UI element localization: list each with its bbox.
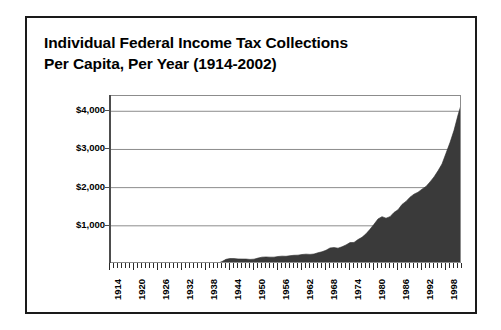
x-tick-1948	[245, 263, 246, 268]
x-tick-1944	[229, 263, 230, 270]
x-tick-1979	[369, 263, 370, 268]
x-tick-1934	[189, 263, 190, 268]
x-tick-1961	[297, 263, 298, 268]
x-tick-1915	[113, 263, 114, 268]
chart-title: Individual Federal Income Tax Collection…	[44, 33, 444, 75]
x-tick-2001	[457, 263, 458, 268]
x-tick-1955	[273, 263, 274, 268]
x-tick-1949	[249, 263, 250, 268]
x-tick-1963	[305, 263, 306, 268]
x-tick-1916	[117, 263, 118, 268]
x-tick-1964	[309, 263, 310, 268]
x-tick-1918	[125, 263, 126, 268]
x-tick-1935	[193, 263, 194, 268]
y-tick-label-2000: $2,000	[49, 182, 105, 192]
x-tick-label-1986: 1986	[401, 279, 411, 300]
x-tick-1939	[209, 263, 210, 268]
x-tick-1960	[293, 263, 294, 268]
x-tick-1938	[205, 263, 206, 270]
x-tick-1995	[433, 263, 434, 268]
x-tick-1977	[361, 263, 362, 268]
x-tick-1996	[437, 263, 438, 268]
x-tick-1983	[385, 263, 386, 268]
x-tick-1928	[165, 263, 166, 268]
x-tick-1924	[149, 263, 150, 268]
x-tick-label-1998: 1998	[449, 279, 459, 300]
x-tick-2002	[461, 263, 462, 268]
x-tick-1992	[421, 263, 422, 270]
x-tick-1971	[337, 263, 338, 268]
x-tick-1993	[425, 263, 426, 268]
x-tick-1991	[417, 263, 418, 268]
x-tick-1984	[389, 263, 390, 268]
x-axis-labels: 1914192019261932193819441950195619621968…	[109, 270, 461, 320]
x-tick-1981	[377, 263, 378, 268]
x-tick-label-1968: 1968	[329, 279, 339, 300]
x-tick-label-1914: 1914	[113, 279, 123, 300]
plot-area	[109, 95, 461, 263]
x-tick-1994	[429, 263, 430, 268]
x-tick-1973	[345, 263, 346, 268]
x-tick-label-1974: 1974	[353, 279, 363, 300]
x-tick-label-1956: 1956	[281, 279, 291, 300]
x-tick-1922	[141, 263, 142, 268]
x-tick-label-1944: 1944	[233, 279, 243, 300]
x-tick-label-1920: 1920	[137, 279, 147, 300]
x-tick-1999	[449, 263, 450, 268]
x-tick-1974	[349, 263, 350, 270]
x-tick-1925	[153, 263, 154, 268]
x-tick-1976	[357, 263, 358, 268]
x-tick-1998	[445, 263, 446, 270]
x-tick-1941	[217, 263, 218, 268]
x-tick-1956	[277, 263, 278, 270]
x-tick-1923	[145, 263, 146, 268]
x-tick-label-1950: 1950	[257, 279, 267, 300]
y-tick-label-3000: $3,000	[49, 143, 105, 153]
x-tick-1951	[257, 263, 258, 268]
y-axis-line	[109, 95, 111, 263]
x-tick-1962	[301, 263, 302, 270]
x-tick-label-1992: 1992	[425, 279, 435, 300]
x-tick-1968	[325, 263, 326, 270]
x-tick-1969	[329, 263, 330, 268]
x-tick-label-1962: 1962	[305, 279, 315, 300]
x-tick-1945	[233, 263, 234, 268]
x-tick-1931	[177, 263, 178, 268]
figure-border: Individual Federal Income Tax Collection…	[25, 16, 477, 314]
x-tick-1952	[261, 263, 262, 268]
tax-collections-area-series	[110, 102, 461, 263]
x-tick-1917	[121, 263, 122, 268]
area-chart-svg	[110, 96, 461, 263]
x-tick-1914	[109, 263, 110, 270]
x-tick-1970	[333, 263, 334, 268]
x-tick-1987	[401, 263, 402, 268]
x-tick-1940	[213, 263, 214, 268]
x-tick-1982	[381, 263, 382, 268]
x-tick-1946	[237, 263, 238, 268]
x-tick-1967	[321, 263, 322, 268]
x-tick-1919	[129, 263, 130, 268]
x-tick-1957	[281, 263, 282, 268]
x-tick-1990	[413, 263, 414, 268]
x-tick-1988	[405, 263, 406, 268]
x-tick-2000	[453, 263, 454, 268]
x-tick-1972	[341, 263, 342, 268]
x-tick-1978	[365, 263, 366, 268]
x-tick-1985	[393, 263, 394, 268]
x-tick-label-1926: 1926	[161, 279, 171, 300]
x-tick-1966	[317, 263, 318, 268]
x-tick-1930	[173, 263, 174, 268]
x-tick-label-1938: 1938	[209, 279, 219, 300]
x-tick-1927	[161, 263, 162, 268]
x-tick-1921	[137, 263, 138, 268]
y-tick-label-4000: $4,000	[49, 105, 105, 115]
x-tick-1936	[197, 263, 198, 268]
x-tick-1975	[353, 263, 354, 268]
y-axis-labels: $1,000$2,000$3,000$4,000	[47, 95, 105, 263]
x-tick-1954	[269, 263, 270, 268]
x-tick-1997	[441, 263, 442, 268]
y-tick-label-1000: $1,000	[49, 220, 105, 230]
plot-wrapper	[109, 95, 461, 263]
x-tick-1986	[397, 263, 398, 270]
x-axis-ticks	[109, 263, 461, 270]
